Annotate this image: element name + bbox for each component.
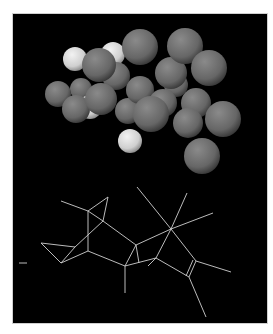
bond-line xyxy=(103,197,108,221)
bond-line xyxy=(41,243,75,247)
bond-line xyxy=(103,221,136,245)
heavy-atom xyxy=(122,29,158,65)
bond-line xyxy=(41,243,61,263)
bond-line xyxy=(61,201,88,211)
bond-line xyxy=(75,221,103,247)
heavy-atom xyxy=(205,101,241,137)
molecule-render xyxy=(13,14,268,324)
heavy-atom xyxy=(191,50,227,86)
molecule-figure-panel: Molecular model: space-filling (top) and… xyxy=(12,13,268,324)
bond-line xyxy=(196,261,231,272)
bond-line xyxy=(61,247,75,263)
bond-line xyxy=(189,277,206,317)
bond-line xyxy=(88,251,125,266)
bond-line xyxy=(125,245,136,266)
bond-line xyxy=(156,229,171,258)
bond-line xyxy=(186,260,193,276)
bond-line xyxy=(171,229,196,261)
heavy-atom xyxy=(82,48,116,82)
bond-line xyxy=(136,245,139,263)
bond-line xyxy=(136,229,171,245)
heavy-atom xyxy=(173,108,203,138)
bond-line xyxy=(125,258,156,266)
bond-line xyxy=(189,261,196,277)
bond-line xyxy=(156,258,189,277)
bond-line xyxy=(88,211,103,221)
heavy-atom xyxy=(133,96,169,132)
bond-line xyxy=(88,197,108,211)
heavy-atom xyxy=(184,138,220,174)
wireframe-model xyxy=(19,187,231,317)
bond-line xyxy=(137,187,171,229)
heavy-atom xyxy=(85,83,117,115)
hydrogen-atom xyxy=(118,129,142,153)
bond-line xyxy=(61,251,88,263)
space-filling-model xyxy=(45,28,241,174)
